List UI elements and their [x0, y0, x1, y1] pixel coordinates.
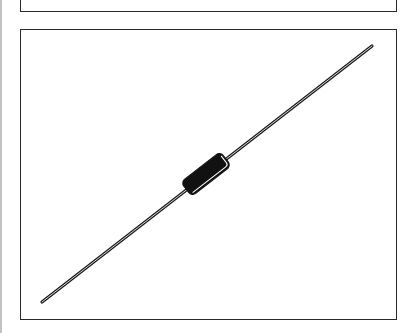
axial-component-drawing: [0, 0, 415, 333]
component-body: [181, 152, 232, 197]
